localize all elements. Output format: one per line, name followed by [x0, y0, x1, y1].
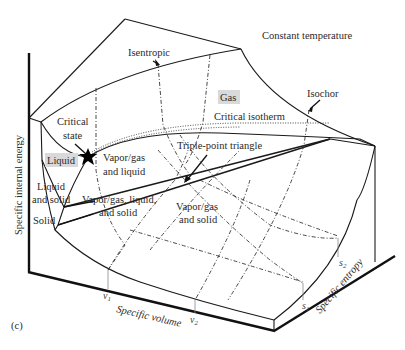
liquid-label: Liquid — [47, 155, 76, 166]
vapor-solid-label-1: Vapor/gas — [176, 201, 218, 212]
gas-label: Gas — [220, 92, 236, 103]
liquid-and-solid-label-1: Liquid — [37, 181, 66, 192]
vapor-liquid-solid-label-1: Vapor/gas, liquid, — [82, 194, 156, 205]
critical-state-arrow — [75, 144, 86, 154]
dash-dot-lines — [96, 55, 338, 300]
vapor-solid-label-2: and solid — [179, 214, 218, 225]
v2-tick-label: v2 — [190, 314, 198, 327]
solid-label: Solid — [33, 215, 56, 226]
liquid-and-solid-label-2: and solid — [32, 194, 71, 205]
vapor-liquid-solid-label-2: and solid — [99, 207, 138, 218]
isentropic-label: Isentropic — [128, 47, 170, 58]
vapor-liquid-label-1: Vapor/gas — [103, 152, 145, 163]
triple-point-arrow — [187, 155, 207, 180]
vapor-liquid-label-2: and liquid — [103, 166, 146, 177]
critical-state-label-1: Critical — [57, 116, 89, 127]
critical-isotherm-label: Critical isotherm — [214, 111, 285, 122]
isochor-label: Isochor — [307, 88, 339, 99]
thermodynamic-surface-diagram: Constant temperature Isentropic Isochor … — [0, 0, 405, 350]
constant-temperature-label: Constant temperature — [262, 30, 352, 41]
internal-energy-axis-label: Specific internal energy — [13, 134, 24, 235]
critical-state-label-2: state — [63, 130, 83, 141]
triple-point-triangle-label: Triple-point triangle — [177, 140, 262, 151]
s1-tick-label: s1 — [302, 300, 309, 313]
panel-label: (c) — [11, 320, 23, 332]
